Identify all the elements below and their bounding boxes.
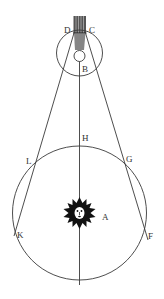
figure-caption (8, 292, 158, 299)
sun-face-icon (64, 197, 96, 229)
shaded-wedge (74, 33, 86, 50)
line-d-k (14, 33, 74, 236)
tiny-circle-b (74, 51, 85, 62)
label-a: A (102, 213, 109, 222)
label-c: C (89, 26, 95, 35)
label-k: K (17, 231, 24, 240)
label-g: G (126, 155, 133, 164)
label-b: B (82, 65, 88, 74)
diagram-canvas (0, 0, 164, 299)
label-h: H (82, 134, 89, 143)
label-d: D (64, 26, 71, 35)
label-l: L (26, 157, 32, 166)
label-f: F (148, 232, 153, 241)
